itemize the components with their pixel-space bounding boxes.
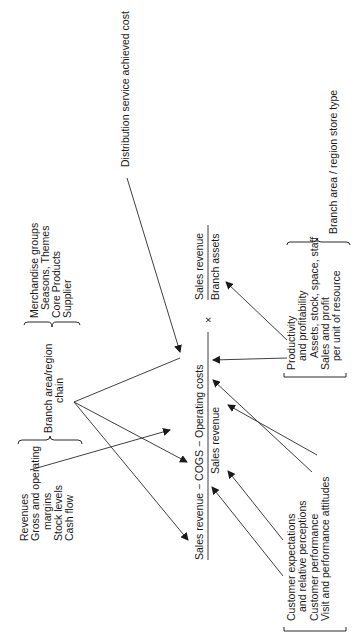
second-numerator: Sales revenue bbox=[193, 233, 205, 300]
diagram-canvas: Distribution service achieved cost Sales… bbox=[0, 0, 363, 632]
svg-text:per unit of resource: per unit of resource bbox=[330, 270, 342, 361]
multiply-sign: × bbox=[202, 317, 214, 323]
distribution-label: Distribution service achieved cost bbox=[119, 11, 131, 167]
distribution-arrow bbox=[127, 178, 180, 352]
store-type-label: Branch area / region store type bbox=[327, 90, 339, 234]
second-denominator: Branch assets bbox=[209, 233, 221, 300]
customer-group: Customer expectations and relative perce… bbox=[285, 476, 331, 621]
svg-text:Visit and performance attitude: Visit and performance attitudes bbox=[319, 476, 331, 621]
main-denominator: Sales revenue bbox=[209, 407, 221, 474]
merchandise-brace bbox=[24, 322, 80, 327]
customer-bracket bbox=[284, 627, 346, 631]
productivity-bracket bbox=[284, 373, 346, 377]
svg-text:Cash flow: Cash flow bbox=[63, 494, 75, 541]
svg-text:and profitability: and profitability bbox=[296, 290, 308, 361]
merchandise-group: Merchandise groups Seasons, Themes Core … bbox=[28, 223, 73, 318]
productivity-connectors bbox=[213, 282, 287, 360]
svg-text:Gross and operating: Gross and operating bbox=[29, 446, 41, 541]
productivity-group: Productivity and profitability Assets, s… bbox=[285, 237, 342, 370]
financial-brace bbox=[18, 436, 82, 444]
branch-chain-label-2: chain bbox=[53, 378, 65, 403]
svg-text:Supplier: Supplier bbox=[61, 279, 73, 318]
main-numerator: Sales revenue − COGS − Operating costs bbox=[193, 364, 205, 560]
svg-text:and relative perceptions: and relative perceptions bbox=[296, 501, 308, 613]
